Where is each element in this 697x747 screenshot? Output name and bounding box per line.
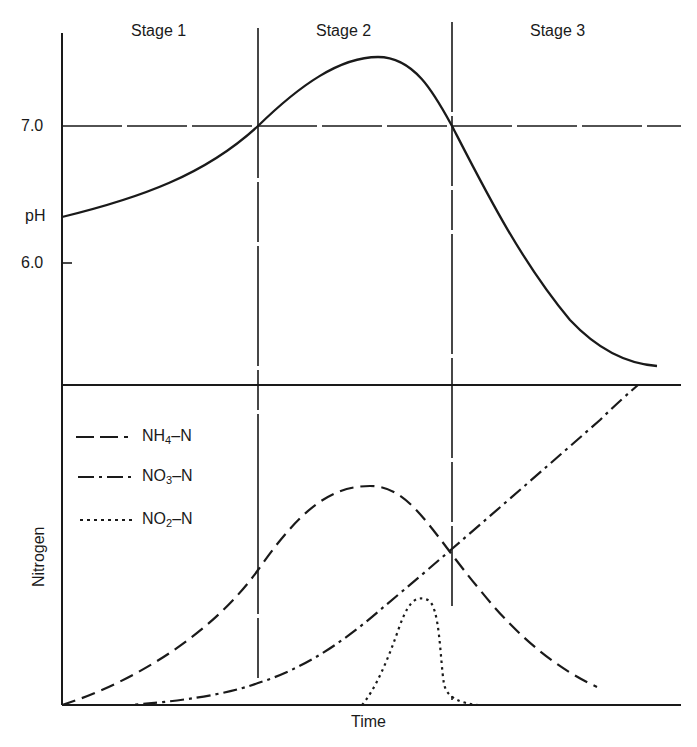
ph-curve (62, 57, 657, 366)
stage-3-label: Stage 3 (530, 22, 585, 40)
stage-1-label: Stage 1 (131, 22, 186, 40)
legend-item-no3: NO3–N (142, 467, 193, 486)
legend-item-no2: NO2–N (142, 510, 193, 529)
y-axis-label-nitrogen: Nitrogen (30, 527, 48, 587)
y-axis-label-ph: pH (25, 207, 45, 225)
stage-2-label: Stage 2 (316, 22, 371, 40)
ytick-label-7: 7.0 (21, 117, 43, 135)
legend-item-nh4: NH4–N (142, 427, 192, 446)
ytick-label-6: 6.0 (21, 254, 43, 272)
ph-nitrogen-chart (0, 0, 697, 747)
x-axis-label-time: Time (351, 713, 386, 731)
no2-curve (362, 598, 478, 705)
